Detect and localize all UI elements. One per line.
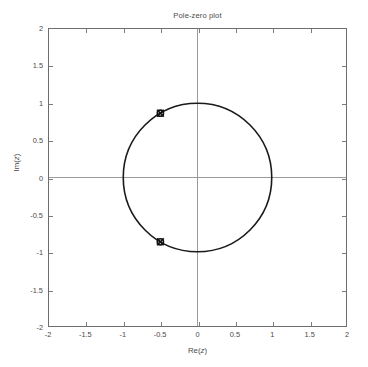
x-tick-label: -0.5	[154, 330, 167, 339]
x-tick-top	[199, 29, 200, 33]
x-tick-top	[124, 29, 125, 33]
plot-graphics	[49, 29, 346, 326]
x-tick-bottom	[236, 322, 237, 326]
x-tick-label: 1.5	[304, 330, 314, 339]
x-tick-bottom	[86, 322, 87, 326]
x-tick-label: 1	[270, 330, 274, 339]
page-title: Pole-zero plot	[48, 11, 347, 20]
x-tick-top	[161, 29, 162, 33]
y-tick-left	[49, 291, 53, 292]
x-tick-top	[311, 29, 312, 33]
x-tick-bottom	[311, 322, 312, 326]
y-tick-label: -1	[8, 248, 43, 257]
x-tick-bottom	[199, 322, 200, 326]
x-tick-bottom	[161, 322, 162, 326]
x-tick-label: 0	[195, 330, 199, 339]
y-tick-left	[49, 104, 53, 105]
y-tick-right	[342, 141, 346, 142]
y-tick-label: -2	[8, 323, 43, 332]
plot-axes-box	[48, 28, 347, 327]
x-tick-label: -2	[45, 330, 52, 339]
x-tick-bottom	[124, 322, 125, 326]
y-tick-left	[49, 216, 53, 217]
y-tick-right	[342, 216, 346, 217]
y-tick-label: 2	[8, 24, 43, 33]
plot-inner-canvas	[49, 29, 346, 326]
y-tick-left	[49, 66, 53, 67]
x-tick-top	[86, 29, 87, 33]
x-axis-label: Re(z)	[48, 346, 347, 355]
y-tick-label: -1.5	[8, 285, 43, 294]
y-tick-right	[342, 66, 346, 67]
x-tick-bottom	[273, 322, 274, 326]
y-tick-right	[342, 104, 346, 105]
x-tick-label: -1	[119, 330, 126, 339]
y-tick-left	[49, 141, 53, 142]
pole-zero-figure: Pole-zero plot	[0, 0, 368, 367]
x-tick-top	[236, 29, 237, 33]
y-tick-label: 1.5	[8, 61, 43, 70]
y-tick-left	[49, 253, 53, 254]
x-tick-label: 0.5	[230, 330, 240, 339]
y-tick-left	[49, 179, 53, 180]
y-tick-label: 1	[8, 98, 43, 107]
y-tick-right	[342, 291, 346, 292]
x-tick-top	[273, 29, 274, 33]
y-tick-right	[342, 179, 346, 180]
x-tick-label: -1.5	[79, 330, 92, 339]
y-tick-right	[342, 253, 346, 254]
y-tick-label: -0.5	[8, 210, 43, 219]
x-tick-label: 2	[345, 330, 349, 339]
y-axis-label: Im(z)	[12, 133, 21, 193]
